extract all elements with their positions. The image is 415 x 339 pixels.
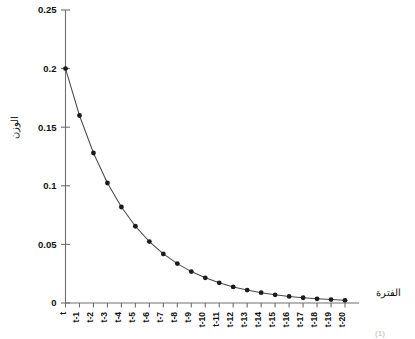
data-point: [259, 290, 264, 295]
y-axis-title: الوزن: [9, 116, 21, 139]
chart-background: [0, 0, 415, 339]
x-tick-label: t-15: [267, 312, 277, 327]
x-tick-label: t-2: [85, 312, 95, 323]
x-tick-label: t-14: [253, 312, 263, 327]
data-point: [105, 181, 110, 186]
data-point: [203, 275, 208, 280]
y-tick-label: 0.2: [43, 63, 56, 74]
x-tick-label: t-17: [295, 312, 305, 327]
x-tick-label: t-5: [127, 312, 137, 323]
chart-container: 00.050.10.150.20.25 tt-1t-2t-3t-4t-5t-6t…: [0, 0, 415, 339]
data-point: [217, 280, 222, 285]
y-tick-label: 0.05: [38, 239, 57, 250]
data-point: [63, 66, 68, 71]
x-axis-ticks: [66, 303, 346, 308]
y-tick-label: 0.1: [43, 180, 57, 191]
x-tick-label: t-13: [239, 312, 249, 327]
y-tick-label: 0.15: [38, 122, 57, 133]
decay-line-chart: 00.050.10.150.20.25 tt-1t-2t-3t-4t-5t-6t…: [0, 0, 415, 339]
data-point: [161, 251, 166, 256]
data-point: [91, 151, 96, 156]
bottom-caption: (1): [375, 329, 385, 338]
data-point: [77, 113, 82, 118]
x-tick-label: t: [58, 312, 68, 315]
data-point: [343, 298, 348, 303]
y-tick-label: 0.25: [38, 4, 57, 15]
data-point: [231, 285, 236, 290]
x-tick-label: t-9: [183, 312, 193, 323]
x-tick-label: t-12: [225, 312, 235, 327]
x-tick-label: t-3: [99, 312, 109, 323]
data-point: [147, 239, 152, 244]
data-point: [329, 297, 334, 302]
x-tick-label: t-8: [169, 312, 179, 323]
x-tick-label: t-1: [71, 312, 81, 323]
x-axis-title: الفترة: [376, 287, 401, 299]
data-point: [133, 224, 138, 229]
x-tick-label: t-10: [197, 312, 207, 327]
x-tick-label: t-20: [337, 312, 347, 327]
x-tick-label: t-11: [211, 312, 221, 327]
x-tick-label: t-16: [281, 312, 291, 327]
x-tick-label: t-4: [113, 312, 123, 323]
x-tick-label: t-18: [309, 312, 319, 327]
data-point: [315, 296, 320, 301]
y-tick-label: 0: [51, 297, 56, 308]
data-point: [119, 205, 124, 210]
data-point: [175, 261, 180, 266]
x-tick-label: t-7: [155, 312, 165, 323]
x-tick-label: t-6: [141, 312, 151, 323]
data-point: [189, 269, 194, 274]
data-point: [301, 295, 306, 300]
data-point: [287, 294, 292, 299]
data-point: [273, 292, 278, 297]
x-tick-label: t-19: [323, 312, 333, 327]
data-point: [245, 288, 250, 293]
